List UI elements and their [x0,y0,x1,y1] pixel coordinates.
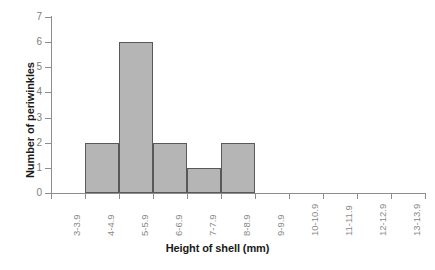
x-tick-mark [357,193,358,199]
bar [187,168,221,193]
y-tick-label: 5 [28,62,42,72]
y-tick-label: 4 [28,87,42,97]
y-tick-mark [45,118,51,119]
x-tick-mark [323,193,324,199]
y-tick-label: 2 [28,138,42,148]
x-tick-label: 5-5.9 [140,214,150,236]
x-tick-mark [289,193,290,199]
x-tick-mark [119,193,120,199]
x-tick-label: 12-12.9 [378,204,388,236]
x-tick-mark [187,193,188,199]
bar [153,143,187,193]
bar [85,143,119,193]
x-tick-mark [391,193,392,199]
x-tick-label: 13-13.9 [412,204,422,236]
x-axis-line [51,193,426,194]
y-tick-label: 0 [28,188,42,198]
x-tick-label: 3-3.9 [72,214,82,236]
x-tick-mark [221,193,222,199]
y-tick-mark [45,42,51,43]
x-tick-label: 10-10.9 [310,204,320,236]
x-tick-mark [425,193,426,199]
x-tick-label: 8-8.9 [242,214,252,236]
y-axis-line [51,16,52,194]
y-tick-label: 7 [28,12,42,22]
y-tick-mark [45,168,51,169]
x-tick-label: 4-4.9 [106,214,116,236]
x-tick-mark [85,193,86,199]
y-tick-mark [45,17,51,18]
x-tick-mark [153,193,154,199]
x-axis-title: Height of shell (mm) [0,242,435,254]
x-tick-mark [255,193,256,199]
x-tick-mark [51,193,52,199]
y-tick-label: 6 [28,37,42,47]
x-tick-label: 9-9.9 [276,214,286,236]
x-tick-label: 11-11.9 [344,205,354,236]
bar [221,143,255,193]
histogram-chart: Number of periwinkles 01234567 3-3.94-4.… [0,0,435,270]
y-tick-mark [45,143,51,144]
bar [119,42,153,193]
y-tick-label: 3 [28,113,42,123]
y-tick-mark [45,67,51,68]
x-tick-label: 7-7.9 [208,214,218,236]
y-tick-label: 1 [28,163,42,173]
x-tick-label: 6-6.9 [174,214,184,236]
y-tick-mark [45,92,51,93]
